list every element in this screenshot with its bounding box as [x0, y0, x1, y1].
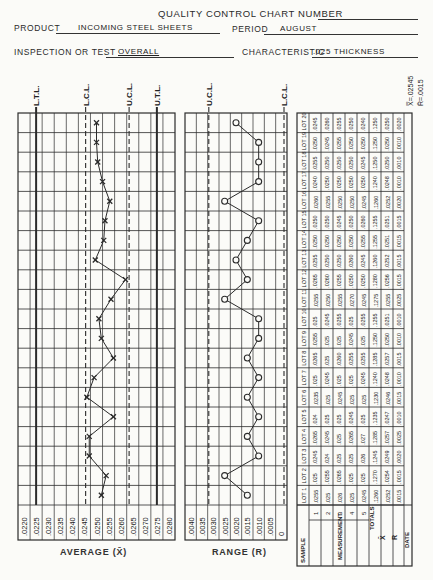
table-cell: .1260: [373, 490, 379, 504]
circle-marker-icon: [244, 277, 250, 283]
lot-header: LOT 10: [301, 308, 307, 326]
table-cell: .0260: [337, 353, 343, 367]
table-cell: .0015: [396, 470, 402, 484]
table-cell: .0246: [385, 392, 391, 406]
table-cell: .0270: [349, 294, 355, 308]
control-charts: .0220.0225.0230.0235.0240.0245.0250.0255…: [0, 0, 433, 580]
table-cell: .025: [361, 395, 367, 406]
lot-header: LOT 13: [301, 250, 307, 268]
table-cell: .0245: [361, 490, 367, 504]
table-cell: .025: [349, 493, 355, 504]
circle-marker-icon: [256, 375, 262, 381]
table-cell: .0245: [361, 372, 367, 386]
table-cell: .025: [325, 336, 331, 347]
circle-marker-icon: [222, 473, 228, 479]
table-cell: .0015: [396, 255, 402, 269]
circle-marker-icon: [256, 159, 262, 165]
table-cell: .0250: [337, 157, 343, 171]
table-cell: .0260: [349, 255, 355, 269]
table-cell: .0250: [325, 294, 331, 308]
circle-marker-icon: [256, 414, 262, 420]
table-cell: .0255: [313, 294, 319, 308]
table-cell: .0255: [337, 313, 343, 327]
table-cell: .0265: [349, 431, 355, 445]
circle-marker-icon: [233, 120, 239, 126]
table-cell: .0245: [325, 313, 331, 327]
table-cell: .0250: [349, 196, 355, 210]
table-cell: .0254: [385, 470, 391, 484]
table-cell: .0251: [385, 215, 391, 229]
lot-header: LOT 5: [301, 409, 307, 424]
table-cell: .0010: [396, 157, 402, 171]
lot-header: LOT 7: [301, 370, 307, 385]
table-cell: .1245: [373, 451, 379, 465]
range-tick-label: .0010: [255, 517, 264, 536]
circle-marker-icon: [244, 394, 250, 400]
table-cell: .0250: [385, 137, 391, 151]
avg-tick-label: .0255: [105, 517, 114, 536]
table-cell: .1250: [373, 117, 379, 131]
x-marker-icon: [111, 356, 116, 361]
lot-header: LOT 20: [301, 112, 307, 130]
table-cell: .0255: [361, 313, 367, 327]
table-cell: .1255: [373, 215, 379, 229]
lot-header: LOT 1: [301, 488, 307, 503]
table-cell: .0250: [325, 215, 331, 229]
table-cell: .0252: [385, 490, 391, 504]
table-cell: .025: [349, 454, 355, 465]
table-cell: .0255: [313, 255, 319, 269]
sample-number: 5: [361, 511, 367, 515]
table-cell: .0255: [361, 235, 367, 249]
limit-label: L.T.L.: [32, 86, 41, 106]
circle-marker-icon: [256, 218, 262, 224]
table-cell: .025: [313, 375, 319, 386]
table-cell: .025: [325, 356, 331, 367]
table-cell: .1255: [373, 313, 379, 327]
table-cell: .0250: [337, 235, 343, 249]
table-cell: .025: [337, 414, 343, 425]
table-cell: .0240: [313, 176, 319, 190]
table-cell: .025: [349, 395, 355, 406]
table-cell: .0255: [313, 333, 319, 347]
circle-marker-icon: [244, 355, 250, 361]
circle-marker-icon: [233, 257, 239, 263]
limit-label: U.T.L.: [153, 85, 162, 106]
lot-header: LOT 18: [301, 152, 307, 170]
table-cell: .0265: [313, 353, 319, 367]
limit-label: U.C.L.: [205, 83, 214, 106]
lot-header: LOT 8: [301, 351, 307, 366]
table-cell: .0245: [337, 215, 343, 229]
table-cell: .0015: [396, 235, 402, 249]
table-cell: .0010: [396, 372, 402, 386]
avg-tick-label: .0270: [141, 517, 150, 536]
table-cell: .024: [313, 414, 319, 425]
table-cell: .0250: [349, 157, 355, 171]
x-marker-icon: [123, 277, 128, 282]
table-cell: .0247: [385, 411, 391, 425]
range-tick-label: .0015: [243, 517, 252, 536]
measurement-label: MEASUREMENT: [337, 513, 343, 560]
table-cell: .0010: [396, 176, 402, 190]
table-cell: .0250: [325, 255, 331, 269]
table-cell: .0250: [325, 176, 331, 190]
circle-marker-icon: [244, 433, 250, 439]
table-cell: .025: [349, 473, 355, 484]
table-cell: .0245: [361, 255, 367, 269]
table-cell: .0260: [325, 274, 331, 288]
table-cell: .026: [337, 493, 343, 504]
table-cell: .1250: [373, 137, 379, 151]
average-chart: .0220.0225.0230.0235.0240.0245.0250.0255…: [18, 83, 175, 540]
table-cell: .0015: [396, 353, 402, 367]
limit-label: L.C.L.: [280, 84, 289, 106]
table-cell: .0255: [325, 196, 331, 210]
table-cell: .0020: [396, 451, 402, 465]
circle-marker-icon: [256, 453, 262, 459]
table-cell: .0245: [313, 117, 319, 131]
table-cell: .0250: [337, 176, 343, 190]
table-cell: .025: [361, 414, 367, 425]
table-cell: .0015: [396, 274, 402, 288]
table-cell: .0255: [361, 353, 367, 367]
circle-marker-icon: [256, 316, 262, 322]
lot-header: LOT 4: [301, 429, 307, 444]
table-cell: .0245: [349, 411, 355, 425]
